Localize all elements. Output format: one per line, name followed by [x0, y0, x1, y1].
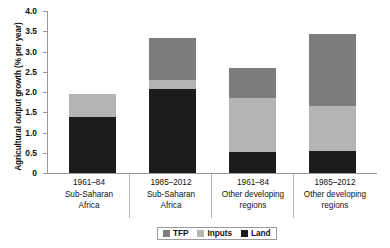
category-region-line2: regions — [212, 200, 294, 212]
bar-segment-inputs — [309, 106, 356, 151]
category-region-line2: regions — [294, 200, 376, 212]
plot-area: 00.51.01.52.02.53.03.54.0 — [47, 11, 377, 174]
y-axis-tick: 2.5 — [43, 72, 47, 73]
bar-segment-land — [229, 152, 276, 173]
category-region-line1: Sub-Saharan — [130, 189, 212, 201]
y-axis-tick-label: 4.0 — [25, 6, 37, 16]
category-region-line2: Africa — [130, 200, 212, 212]
bar-segment-inputs — [69, 94, 116, 117]
y-axis-tick-label: 1.0 — [25, 128, 37, 138]
bar-segment-land — [149, 89, 196, 173]
bar-stack — [229, 68, 276, 173]
bar-segment-tfp — [149, 38, 196, 80]
x-axis-category-labels: 1961–84Sub-SaharanAfrica1985–2012Sub-Sah… — [47, 174, 377, 218]
bar-segment-land — [309, 151, 356, 173]
y-axis-tick-label: 3.5 — [25, 26, 37, 36]
legend-label: Inputs — [207, 229, 232, 238]
y-axis-tick: 2.0 — [43, 92, 47, 93]
category-separator — [129, 174, 130, 218]
category-period: 1961–84 — [212, 177, 294, 189]
y-axis-line — [47, 11, 48, 174]
legend-label: Land — [251, 229, 271, 238]
y-axis-tick: 1.0 — [43, 133, 47, 134]
bar-stack — [309, 34, 356, 173]
y-axis-tick-label: 0.5 — [25, 148, 37, 158]
legend-item-inputs: Inputs — [197, 229, 232, 238]
y-axis-tick-label: 3.0 — [25, 47, 37, 57]
category-period: 1985–2012 — [130, 177, 212, 189]
category-region-line1: Other developing — [294, 189, 376, 201]
y-axis-tick-label: 2.0 — [25, 87, 37, 97]
category-period: 1985–2012 — [294, 177, 376, 189]
bar-segment-tfp — [229, 68, 276, 98]
category-region-line1: Other developing — [212, 189, 294, 201]
bar-segment-land — [69, 117, 116, 173]
y-axis-tick-label: 0 — [32, 168, 37, 178]
legend-item-tfp: TFP — [163, 229, 188, 238]
bar-stack — [149, 38, 196, 173]
bar-segment-inputs — [149, 80, 196, 89]
legend-item-land: Land — [241, 229, 271, 238]
chart-legend: TFPInputsLand — [157, 227, 277, 240]
category-region-line2: Africa — [48, 200, 130, 212]
legend-label: TFP — [173, 229, 188, 238]
y-axis-tick: 4.0 — [43, 11, 47, 12]
category-label: 1985–2012Sub-SaharanAfrica — [130, 174, 212, 218]
y-axis-tick: 3.0 — [43, 52, 47, 53]
category-label: 1961–84Sub-SaharanAfrica — [48, 174, 130, 218]
y-axis-tick-label: 2.5 — [25, 67, 37, 77]
category-region-line1: Sub-Saharan — [48, 189, 130, 201]
category-separator — [293, 174, 294, 218]
y-axis-title: Agricultural output growth (% per year) — [14, 7, 23, 187]
category-separator — [211, 174, 212, 218]
category-label: 1961–84Other developingregions — [212, 174, 294, 218]
y-axis-tick: 0.5 — [43, 153, 47, 154]
chart-figure: Agricultural output growth (% per year) … — [0, 0, 390, 248]
bar-segment-tfp — [309, 34, 356, 106]
bar-segment-inputs — [229, 98, 276, 152]
legend-swatch-icon — [197, 230, 204, 237]
y-axis-tick-label: 1.5 — [25, 107, 37, 117]
category-label: 1985–2012Other developingregions — [294, 174, 376, 218]
y-axis-tick: 3.5 — [43, 31, 47, 32]
legend-swatch-icon — [241, 230, 248, 237]
legend-swatch-icon — [163, 230, 170, 237]
category-period: 1961–84 — [48, 177, 130, 189]
bar-stack — [69, 94, 116, 173]
y-axis-tick: 1.5 — [43, 112, 47, 113]
